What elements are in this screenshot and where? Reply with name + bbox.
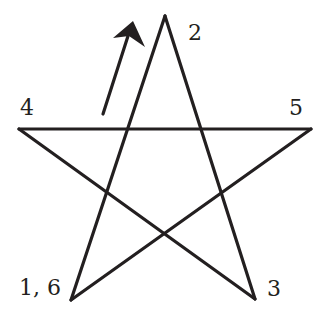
arrow-head [113, 21, 145, 47]
vertex-label-1-6: 1, 6 [19, 275, 61, 300]
vertex-label-3: 3 [267, 276, 281, 301]
vertex-label-5: 5 [289, 95, 303, 120]
vertex-label-4: 4 [20, 95, 34, 120]
pentagram-diagram: 2 4 5 1, 6 3 [0, 0, 326, 322]
edge-1-2 [71, 16, 165, 300]
arrow-shaft [103, 36, 128, 114]
edge-3-4 [19, 129, 255, 299]
vertex-label-2: 2 [188, 20, 202, 45]
edge-5-6 [71, 129, 311, 300]
edge-2-3 [165, 16, 255, 299]
